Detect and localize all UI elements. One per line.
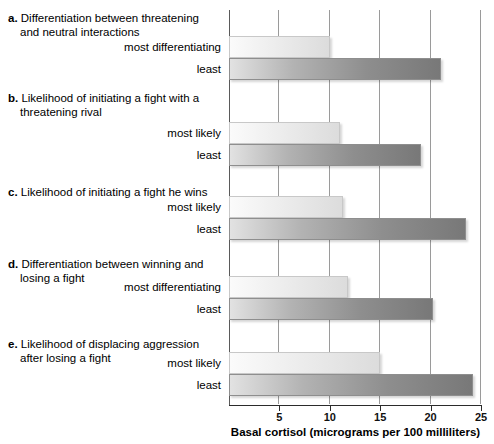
bar-d-most	[229, 276, 348, 298]
group-letter: b.	[8, 92, 21, 104]
x-axis-line	[229, 405, 482, 406]
bar-c-least	[229, 218, 466, 240]
bar-b-most	[229, 122, 340, 144]
x-tick-label-25: 25	[475, 411, 487, 423]
x-tick-label-10: 10	[324, 411, 336, 423]
group-letter: e.	[8, 338, 21, 350]
bar-e-most	[229, 352, 380, 374]
x-axis-title: Basal cortisol (micrograms per 100 milli…	[229, 426, 482, 438]
x-tick-label-5: 5	[276, 411, 282, 423]
bar-label-b-most: most likely	[11, 127, 221, 140]
bar-label-a-least: least	[11, 63, 221, 76]
group-letter: a.	[8, 12, 21, 24]
bar-label-d-least: least	[11, 303, 221, 316]
bar-label-a-most: most differentiating	[11, 41, 221, 54]
group-letter: d.	[8, 258, 21, 270]
group-title-line-1: Differentiation between threatening	[21, 12, 199, 24]
bar-a-most	[229, 36, 330, 58]
chart-figure: 510152025 Basal cortisol (micrograms per…	[0, 0, 494, 444]
bar-label-c-most: most likely	[11, 201, 221, 214]
bar-label-e-most: most likely	[11, 357, 221, 370]
bar-label-c-least: least	[11, 223, 221, 236]
x-tick-label-20: 20	[424, 411, 436, 423]
group-title-c: c. Likelihood of initiating a fight he w…	[8, 186, 222, 200]
bar-c-most	[229, 196, 343, 218]
bar-d-least	[229, 298, 433, 320]
bar-e-least	[229, 374, 473, 396]
group-title-a: a. Differentiation between threateningan…	[8, 12, 222, 39]
x-tick-label-15: 15	[374, 411, 386, 423]
group-letter: c.	[8, 186, 21, 198]
bar-label-b-least: least	[11, 149, 221, 162]
bar-a-least	[229, 58, 441, 80]
bar-b-least	[229, 144, 421, 166]
group-title-line-2: and neutral interactions	[8, 26, 222, 40]
gridline-25	[480, 10, 481, 404]
group-title-line-1: Likelihood of initiating a fight with a	[21, 92, 199, 104]
group-title-line-1: Likelihood of initiating a fight he wins	[21, 186, 208, 198]
group-title-b: b. Likelihood of initiating a fight with…	[8, 92, 222, 119]
bar-label-e-least: least	[11, 379, 221, 392]
group-title-line-2: threatening rival	[8, 106, 222, 120]
group-title-line-1: Likelihood of displacing aggression	[21, 338, 199, 350]
bar-label-d-most: most differentiating	[11, 281, 221, 294]
group-title-line-1: Differentiation between winning and	[21, 258, 203, 270]
